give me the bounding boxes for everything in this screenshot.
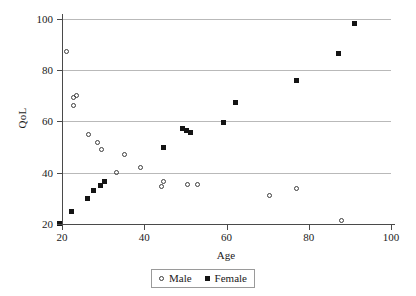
x-tick bbox=[144, 225, 145, 230]
data-point-male bbox=[95, 140, 100, 145]
y-tick-label: 40 bbox=[23, 168, 53, 179]
x-tick-label: 60 bbox=[212, 232, 242, 243]
gridline bbox=[62, 121, 391, 122]
data-point-female bbox=[69, 209, 74, 214]
y-tick bbox=[57, 173, 62, 174]
y-tick-label: 100 bbox=[23, 14, 53, 25]
data-point-male bbox=[114, 170, 119, 175]
y-axis-line bbox=[62, 14, 63, 230]
x-tick-label: 20 bbox=[47, 232, 77, 243]
data-point-male bbox=[138, 165, 143, 170]
legend-label-female: Female bbox=[215, 272, 247, 284]
x-tick bbox=[227, 225, 228, 230]
x-tick bbox=[62, 225, 63, 230]
filled-square-icon bbox=[205, 276, 210, 281]
legend-entry-male: Male bbox=[159, 272, 192, 284]
data-point-male bbox=[185, 182, 190, 187]
x-axis-title: Age bbox=[196, 249, 256, 261]
data-point-male bbox=[195, 182, 200, 187]
y-tick bbox=[57, 19, 62, 20]
data-point-male bbox=[99, 147, 104, 152]
data-point-female bbox=[233, 100, 238, 105]
y-tick-label: 20 bbox=[23, 219, 53, 230]
x-tick-label: 40 bbox=[129, 232, 159, 243]
data-point-male bbox=[122, 152, 127, 157]
plot-area bbox=[62, 19, 391, 224]
chart-legend: Male Female bbox=[151, 269, 255, 288]
x-tick bbox=[391, 225, 392, 230]
data-point-female bbox=[98, 183, 103, 188]
data-point-male bbox=[64, 49, 69, 54]
data-point-female bbox=[102, 179, 107, 184]
data-point-male bbox=[267, 193, 272, 198]
data-point-female bbox=[91, 188, 96, 193]
x-tick bbox=[309, 225, 310, 230]
data-point-male bbox=[294, 186, 299, 191]
y-tick-label: 80 bbox=[23, 65, 53, 76]
legend-entry-female: Female bbox=[205, 272, 247, 284]
data-point-male bbox=[339, 218, 344, 223]
open-circle-icon bbox=[159, 276, 164, 281]
data-point-male bbox=[74, 93, 79, 98]
y-tick bbox=[57, 70, 62, 71]
data-point-female bbox=[336, 51, 341, 56]
x-tick-label: 80 bbox=[294, 232, 324, 243]
y-axis-title: QoL bbox=[16, 88, 28, 148]
legend-label-male: Male bbox=[169, 272, 192, 284]
y-tick bbox=[57, 121, 62, 122]
data-point-male bbox=[71, 103, 76, 108]
data-point-female bbox=[188, 130, 193, 135]
data-point-male bbox=[86, 132, 91, 137]
data-point-male bbox=[159, 184, 164, 189]
gridline bbox=[62, 19, 391, 20]
data-point-female bbox=[221, 120, 226, 125]
data-point-female bbox=[352, 21, 357, 26]
data-point-female bbox=[161, 145, 166, 150]
gridline bbox=[62, 70, 391, 71]
data-point-female bbox=[85, 196, 90, 201]
scatter-plot-figure: 20406080100 20406080100 QoL Age Male Fem… bbox=[0, 0, 416, 296]
x-tick-label: 100 bbox=[376, 232, 406, 243]
data-point-female bbox=[294, 78, 299, 83]
gridline bbox=[62, 173, 391, 174]
